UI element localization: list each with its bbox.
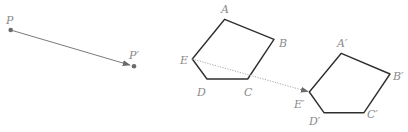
vertex-label-c-prime: C′ xyxy=(367,108,378,121)
pentagon-labels: ABCDE xyxy=(179,3,287,99)
vertex-label-e-prime: E′ xyxy=(293,98,305,111)
translation-vector-arrow xyxy=(13,31,130,65)
label-p-prime: P′ xyxy=(128,49,139,62)
vertex-label-b: B xyxy=(278,37,287,50)
translation-diagram: P P′ ABCDE A′B′C′D′E′ xyxy=(0,0,408,132)
vertex-label-e: E xyxy=(179,54,188,67)
diagram-canvas: P P′ ABCDE A′B′C′D′E′ xyxy=(0,0,408,132)
point-p xyxy=(8,28,13,33)
vertex-label-d-prime: D′ xyxy=(308,115,321,128)
pentagon-image-abcde-prime xyxy=(309,53,390,112)
label-p: P xyxy=(5,14,14,27)
pentagon-image-labels: A′B′C′D′E′ xyxy=(293,37,404,128)
vertex-label-b-prime: B′ xyxy=(392,70,404,83)
vertex-label-a-prime: A′ xyxy=(336,37,348,50)
vertex-label-a: A xyxy=(220,3,229,16)
vertex-label-c: C xyxy=(244,86,253,99)
point-p-prime xyxy=(132,64,137,69)
vertex-label-d: D xyxy=(196,86,206,99)
